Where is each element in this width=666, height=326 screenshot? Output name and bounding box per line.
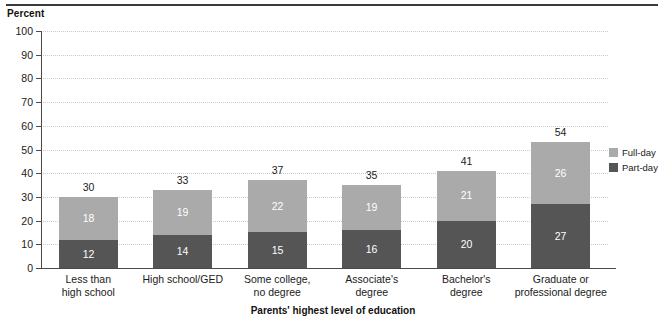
- y-axis-tick: [36, 126, 41, 127]
- bar-total-label: 30: [59, 182, 118, 193]
- y-axis-tick: [36, 55, 41, 56]
- x-axis-category-label-line: high school: [33, 286, 144, 299]
- legend-swatch-part-day: [609, 163, 618, 172]
- gridline: [41, 126, 608, 127]
- bar-segment-part-day: 14: [153, 235, 212, 268]
- legend-label-part-day: Part-day: [622, 162, 658, 173]
- y-axis-tick: [36, 221, 41, 222]
- gridline: [41, 150, 608, 151]
- legend-label-full-day: Full-day: [622, 147, 656, 158]
- bar-segment-part-day: 12: [59, 240, 118, 268]
- gridline: [41, 173, 608, 174]
- legend-item-part-day: Part-day: [609, 161, 658, 174]
- bar-segment-value-part-day: 16: [366, 244, 378, 255]
- bar-segment-part-day: 27: [531, 204, 590, 268]
- y-axis-tick-label: 40: [5, 168, 33, 178]
- bar-segment-value-part-day: 20: [461, 239, 473, 250]
- x-axis-category-label: Graduate orprofessional degree: [506, 273, 617, 298]
- y-axis-line: [41, 31, 42, 269]
- y-axis-tick-label: 80: [5, 73, 33, 83]
- gridline: [41, 55, 608, 56]
- bar-segment-full-day: 18: [59, 197, 118, 240]
- bar-segment-value-part-day: 27: [555, 231, 567, 242]
- y-axis-tick-label: 20: [5, 216, 33, 226]
- bar-stack: 1218: [59, 197, 118, 268]
- bar-stack: 1522: [248, 180, 307, 268]
- top-divider-rule: [6, 4, 658, 6]
- y-axis-tick-label: 70: [5, 97, 33, 107]
- bar-stack: 2021: [437, 171, 496, 268]
- plot-gridlines: [41, 31, 608, 268]
- gridline: [41, 78, 608, 79]
- bar-segment-value-full-day: 21: [461, 190, 473, 201]
- gridline: [41, 31, 608, 32]
- bar-segment-full-day: 19: [342, 185, 401, 230]
- bar-total-label: 54: [531, 127, 590, 138]
- y-axis-tick: [36, 197, 41, 198]
- bar-segment-part-day: 16: [342, 230, 401, 268]
- y-axis-tick: [36, 173, 41, 174]
- bar-segment-full-day: 19: [153, 190, 212, 235]
- bar-segment-value-full-day: 19: [177, 207, 189, 218]
- bar-segment-part-day: 20: [437, 221, 496, 268]
- bar-total-label: 33: [153, 175, 212, 186]
- y-axis-tick-label: 100: [5, 26, 33, 36]
- bar-segment-full-day: 21: [437, 171, 496, 221]
- bar-stack: 1619: [342, 185, 401, 268]
- bar-total-label: 35: [342, 170, 401, 181]
- bar-stack: 1419: [153, 190, 212, 268]
- x-axis-category-label-line: professional degree: [506, 286, 617, 299]
- y-axis-tick-label: 90: [5, 50, 33, 60]
- bar-segment-value-part-day: 14: [177, 246, 189, 257]
- legend-item-full-day: Full-day: [609, 146, 658, 159]
- bar-segment-value-full-day: 18: [83, 213, 95, 224]
- bar-segment-value-part-day: 15: [272, 245, 284, 256]
- y-axis-tick-label: 0: [5, 263, 33, 273]
- chart-figure: Percent 0102030405060708090100 121830141…: [0, 0, 666, 326]
- y-axis-tick: [36, 150, 41, 151]
- bar-segment-value-full-day: 26: [555, 168, 567, 179]
- bar-segment-value-part-day: 12: [83, 249, 95, 260]
- y-axis-tick: [36, 78, 41, 79]
- x-axis-line: [41, 268, 616, 269]
- x-axis-title: Parents' highest level of education: [0, 305, 666, 316]
- bar-segment-full-day: 22: [248, 180, 307, 232]
- y-axis-unit-label: Percent: [7, 8, 44, 19]
- bar-segment-value-full-day: 22: [272, 201, 284, 212]
- bar-segment-full-day: 26: [531, 142, 590, 204]
- y-axis-tick: [36, 268, 41, 269]
- bar-stack: 2726: [531, 142, 590, 268]
- bar-segment-value-full-day: 19: [366, 202, 378, 213]
- bar-total-label: 37: [248, 165, 307, 176]
- y-axis-tick-label: 50: [5, 145, 33, 155]
- bar-segment-part-day: 15: [248, 232, 307, 268]
- y-axis-tick: [36, 244, 41, 245]
- y-axis-tick-label: 30: [5, 192, 33, 202]
- bar-total-label: 41: [437, 156, 496, 167]
- y-axis-tick: [36, 102, 41, 103]
- legend-swatch-full-day: [609, 148, 618, 157]
- chart-legend: Full-day Part-day: [609, 146, 658, 176]
- y-axis-tick-label: 60: [5, 121, 33, 131]
- gridline: [41, 244, 608, 245]
- y-axis-tick-label: 10: [5, 239, 33, 249]
- gridline: [41, 221, 608, 222]
- gridline: [41, 102, 608, 103]
- y-axis-tick: [36, 31, 41, 32]
- x-axis-category-label-line: Graduate or: [506, 273, 617, 286]
- gridline: [41, 197, 608, 198]
